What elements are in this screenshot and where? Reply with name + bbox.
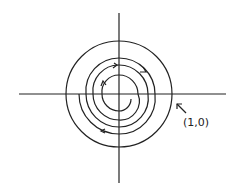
pointer-arrow — [177, 104, 186, 113]
spiral-diagram — [0, 0, 237, 190]
diagram: (1,0) — [0, 0, 237, 190]
point-label: (1,0) — [183, 116, 209, 129]
arrow-icon — [140, 67, 146, 72]
